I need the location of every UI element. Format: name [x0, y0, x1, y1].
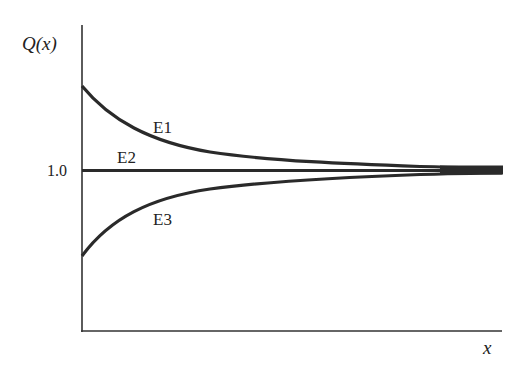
y-axis-label: Q(x) — [22, 33, 57, 55]
series-e2-label: E2 — [117, 148, 136, 167]
x-axis-label: x — [482, 337, 492, 358]
series-e3-label: E3 — [153, 210, 172, 229]
converged-end — [440, 166, 503, 175]
y-tick-label: 1.0 — [47, 162, 67, 179]
chart: Q(x) x 1.0 E1 E2 E3 — [0, 0, 525, 369]
series-e3-line — [82, 173, 502, 256]
series-e1-label: E1 — [153, 118, 172, 137]
series-e1-line — [82, 86, 502, 168]
